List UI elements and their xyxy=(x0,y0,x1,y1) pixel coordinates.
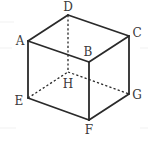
edge-BC xyxy=(89,36,129,62)
vertex-label-E: E xyxy=(15,94,24,108)
vertex-label-C: C xyxy=(132,26,141,40)
edge-EF xyxy=(28,98,89,120)
vertex-label-H: H xyxy=(63,77,73,91)
vertex-label-F: F xyxy=(85,123,93,137)
edge-CD xyxy=(68,15,129,36)
vertex-label-A: A xyxy=(15,34,25,48)
hidden-edges xyxy=(28,15,129,98)
cube-diagram: A B C D E F G H xyxy=(0,0,148,151)
solid-edges xyxy=(28,15,129,120)
edge-DA xyxy=(28,15,68,41)
cube-svg: A B C D E F G H xyxy=(0,0,148,151)
edge-AB xyxy=(28,41,89,62)
edge-HG xyxy=(68,72,129,94)
edge-FG xyxy=(89,94,129,120)
vertex-label-D: D xyxy=(63,0,73,14)
vertex-label-B: B xyxy=(84,45,93,59)
vertex-label-G: G xyxy=(132,88,142,102)
